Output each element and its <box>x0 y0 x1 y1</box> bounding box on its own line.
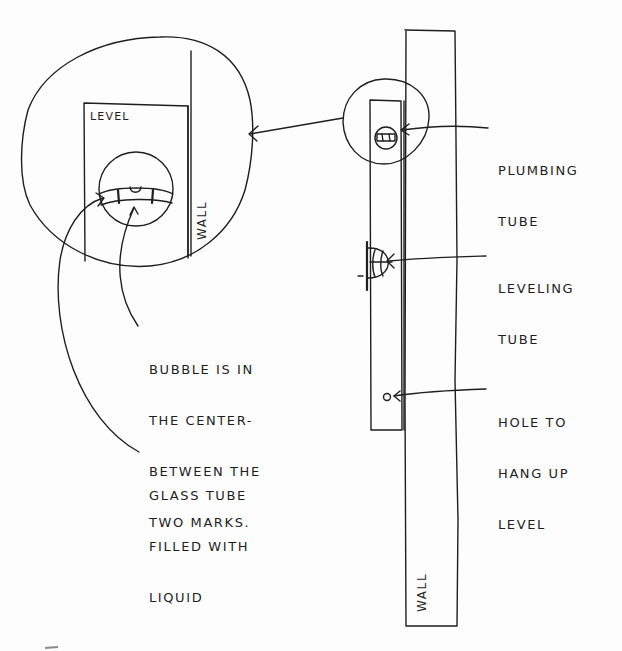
main-wall <box>405 30 458 626</box>
main-wall-label: WALL <box>415 573 429 612</box>
hole-arrow <box>394 389 486 401</box>
callout-line: TUBE <box>498 331 574 348</box>
callout-line: THE CENTER- <box>149 412 261 429</box>
callout-line: HOLE TO <box>498 414 569 431</box>
callout-hole: HOLE TO HANG UP LEVEL <box>498 380 569 550</box>
magnified-inset <box>22 37 253 267</box>
leveling-tube-vial <box>358 242 392 290</box>
main-magnify-circle <box>343 79 429 164</box>
callout-line: HANG UP <box>498 465 569 482</box>
callout-line: FILLED WITH <box>149 538 249 555</box>
callout-line: LIQUID <box>149 589 249 606</box>
magnify-arrow <box>249 118 343 141</box>
inset-vial-window <box>99 152 173 226</box>
inset-mark-left <box>118 190 119 203</box>
inset-mark-right <box>152 190 153 203</box>
callout-line: BUBBLE IS IN <box>149 361 261 378</box>
plumbing-tube-vial <box>375 127 397 149</box>
callout-line: LEVEL <box>498 516 569 533</box>
inset-glass-tube <box>99 188 173 194</box>
plumbing-tube-arrow <box>401 124 488 135</box>
callout-line: LEVELING <box>498 280 574 297</box>
glass-tube-leader <box>58 193 139 452</box>
callout-glass-tube: GLASS TUBE FILLED WITH LIQUID <box>149 453 249 623</box>
callout-line: TUBE <box>498 213 579 230</box>
inset-level-label: LEVEL <box>90 110 130 123</box>
callout-line: GLASS TUBE <box>149 487 249 504</box>
callout-line: PLUMBING <box>498 162 579 179</box>
hanging-hole <box>384 394 391 401</box>
callout-plumbing-tube: PLUMBING TUBE <box>498 128 579 247</box>
callout-leveling-tube: LEVELING TUBE <box>498 246 574 365</box>
corner-mark <box>45 647 58 648</box>
inset-wall-label: WALL <box>195 201 209 240</box>
